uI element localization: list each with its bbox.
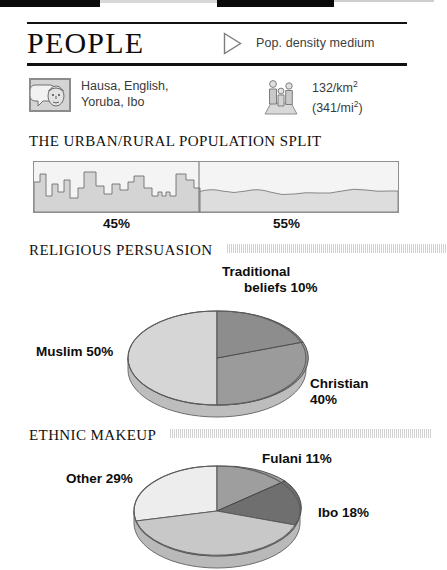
section-heading-ethnic: ETHNIC MAKEUP	[29, 427, 432, 444]
religion-label-christian: Christian 40%	[310, 376, 369, 408]
rural-hills-shape	[198, 189, 398, 212]
speech-face-icon	[29, 78, 71, 112]
religion-pie-svg	[0, 258, 434, 426]
scan-artifact-bar	[0, 0, 434, 9]
density-line1: 132/km2	[312, 81, 358, 95]
religion-label-christian-line2: 40%	[310, 392, 369, 408]
section-heading-ethnic-text: ETHNIC MAKEUP	[29, 427, 156, 443]
urban-skyline-shape	[34, 172, 200, 212]
triangle-right-icon	[223, 32, 242, 55]
page-title: PEOPLE	[27, 27, 223, 59]
rural-percent-label: 55%	[273, 216, 300, 231]
section-rule-religion	[227, 244, 447, 253]
ethnic-pie-chart: Fulani 11% Other 29% Ibo 18%	[0, 443, 434, 570]
ethnic-label-fulani: Fulani 11%	[262, 451, 332, 467]
urban-rural-labels: 45% 55%	[33, 216, 399, 234]
density-line2: (341/mi2)	[312, 101, 363, 115]
fact-languages: Hausa, English, Yoruba, Ibo	[29, 78, 169, 112]
section-rule-ethnic	[170, 429, 432, 438]
urban-rural-svg	[34, 162, 398, 212]
languages-line2: Yoruba, Ibo	[81, 95, 144, 109]
header-rule-bottom	[27, 63, 407, 66]
religion-label-traditional-line1: Traditional	[222, 264, 290, 279]
section-heading-urban-rural-text: THE URBAN/RURAL POPULATION SPLIT	[29, 133, 322, 149]
religion-pie-chart: Traditional beliefs 10% Muslim 50% Chris…	[0, 258, 434, 426]
fact-population-density: 132/km2 (341/mi2)	[258, 76, 363, 116]
pop-density-label: Pop. density medium	[256, 36, 375, 50]
languages-line1: Hausa, English,	[81, 79, 169, 93]
urban-percent-label: 45%	[103, 216, 130, 231]
languages-text: Hausa, English, Yoruba, Ibo	[81, 78, 169, 110]
religion-label-traditional: Traditional beliefs 10%	[222, 264, 318, 296]
section-heading-urban-rural: THE URBAN/RURAL POPULATION SPLIT	[29, 133, 322, 150]
section-heading-religion-text: RELIGIOUS PERSUASION	[29, 242, 212, 258]
ethnic-label-ibo: Ibo 18%	[318, 505, 369, 521]
religion-label-traditional-line2: beliefs 10%	[244, 280, 318, 296]
three-people-icon	[258, 76, 304, 116]
urban-rural-split-chart	[33, 161, 399, 213]
key-facts-row: Hausa, English, Yoruba, Ibo 132/km2 (341…	[29, 76, 411, 126]
page-header: PEOPLE Pop. density medium	[27, 22, 407, 66]
section-heading-religion: RELIGIOUS PERSUASION	[29, 242, 447, 259]
religion-label-muslim: Muslim 50%	[36, 344, 113, 360]
ethnic-label-other: Other 29%	[66, 471, 133, 487]
density-text: 132/km2 (341/mi2)	[312, 76, 363, 116]
religion-label-christian-line1: Christian	[310, 376, 369, 391]
